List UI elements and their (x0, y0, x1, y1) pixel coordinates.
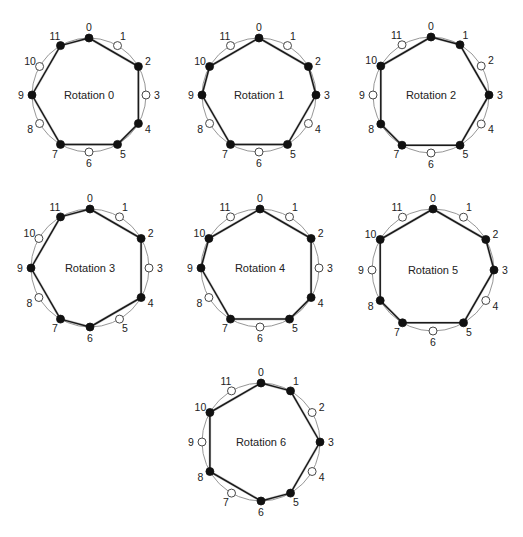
pitch-label-3: 3 (324, 89, 330, 101)
pitch-label-10: 10 (194, 55, 206, 67)
pitch-label-7: 7 (52, 322, 58, 334)
filled-node-0 (429, 205, 437, 213)
filled-node-6 (86, 323, 94, 331)
filled-node-2 (307, 235, 315, 243)
filled-node-4 (137, 294, 145, 302)
rotation-panel-4: 01234567891011Rotation 4 (187, 192, 333, 344)
filled-node-0 (255, 34, 263, 42)
open-node-8 (205, 294, 213, 302)
pitch-label-2: 2 (148, 227, 154, 239)
pitch-label-8: 8 (368, 300, 374, 312)
pitch-label-4: 4 (315, 123, 321, 135)
pitch-label-0: 0 (257, 192, 263, 204)
pitch-label-0: 0 (87, 192, 93, 204)
pitch-label-5: 5 (120, 148, 126, 160)
open-node-11 (227, 42, 235, 50)
pitch-label-1: 1 (466, 201, 472, 213)
pitch-label-5: 5 (463, 148, 469, 160)
pitch-label-11: 11 (220, 201, 231, 213)
pitch-label-11: 11 (221, 375, 232, 387)
pitch-label-5: 5 (290, 148, 296, 160)
pitch-label-3: 3 (328, 436, 334, 448)
rotation-title: Rotation 1 (234, 89, 284, 101)
pitch-label-8: 8 (197, 123, 203, 135)
filled-node-9 (197, 264, 205, 272)
open-node-8 (36, 120, 44, 128)
pitch-label-0: 0 (86, 21, 92, 33)
filled-node-6 (257, 497, 265, 505)
open-node-3 (145, 264, 153, 272)
pitch-label-2: 2 (315, 55, 321, 67)
pitch-label-6: 6 (87, 332, 93, 344)
open-node-1 (116, 213, 124, 221)
open-node-6 (427, 149, 435, 157)
open-node-6 (429, 327, 437, 335)
pitch-label-4: 4 (145, 123, 151, 135)
pitch-label-11: 11 (220, 30, 231, 42)
filled-node-11 (57, 42, 65, 50)
pitch-label-5: 5 (292, 322, 298, 334)
pitch-label-0: 0 (430, 192, 436, 204)
filled-node-10 (205, 235, 213, 243)
pitch-label-11: 11 (392, 201, 403, 213)
open-node-6 (256, 323, 264, 331)
rotation-diagram-figure: 01234567891011Rotation 001234567891011Ro… (0, 0, 523, 537)
pitch-label-5: 5 (122, 322, 128, 334)
filled-node-8 (377, 120, 385, 128)
open-node-9 (198, 438, 206, 446)
filled-node-3 (316, 438, 324, 446)
filled-node-0 (427, 33, 435, 41)
pitch-label-3: 3 (502, 264, 508, 276)
pitch-label-9: 9 (18, 89, 24, 101)
pitch-label-10: 10 (24, 227, 36, 239)
filled-node-10 (206, 409, 214, 417)
pitch-label-4: 4 (318, 297, 324, 309)
pitch-label-0: 0 (258, 366, 264, 378)
filled-node-10 (376, 236, 384, 244)
open-node-8 (35, 294, 43, 302)
pitch-label-9: 9 (358, 264, 364, 276)
pitch-label-10: 10 (194, 227, 206, 239)
rotation-panel-6: 01234567891011Rotation 6 (188, 366, 334, 518)
pitch-label-1: 1 (120, 30, 126, 42)
filled-node-0 (256, 205, 264, 213)
pitch-label-6: 6 (428, 158, 434, 170)
pitch-label-9: 9 (188, 89, 194, 101)
pitch-label-9: 9 (359, 89, 365, 101)
pitch-label-0: 0 (256, 21, 262, 33)
filled-node-8 (206, 468, 214, 476)
filled-node-0 (257, 379, 265, 387)
filled-node-0 (86, 205, 94, 213)
filled-node-2 (137, 235, 145, 243)
pitch-label-8: 8 (26, 297, 32, 309)
pitch-label-2: 2 (145, 55, 151, 67)
pitch-label-10: 10 (365, 54, 377, 66)
pitch-label-4: 4 (488, 123, 494, 135)
pitch-label-11: 11 (391, 29, 402, 41)
pitch-label-9: 9 (187, 262, 193, 274)
pitch-label-1: 1 (292, 201, 298, 213)
pitch-label-5: 5 (293, 496, 299, 508)
pitch-label-0: 0 (428, 20, 434, 32)
pitch-label-10: 10 (195, 401, 207, 413)
rotation-panel-5: 01234567891011Rotation 5 (358, 192, 508, 348)
rotation-panel-3: 01234567891011Rotation 3 (17, 192, 163, 344)
filled-node-9 (28, 91, 36, 99)
pitch-label-10: 10 (24, 55, 36, 67)
open-node-4 (482, 297, 490, 305)
open-node-8 (206, 120, 214, 128)
filled-node-8 (376, 297, 384, 305)
open-node-2 (477, 62, 485, 70)
open-node-4 (477, 120, 485, 128)
rotation-panel-2: 01234567891011Rotation 2 (359, 20, 503, 170)
pitch-label-6: 6 (430, 336, 436, 348)
pitch-label-11: 11 (50, 201, 61, 213)
filled-node-1 (287, 387, 295, 395)
pitch-label-8: 8 (197, 471, 203, 483)
open-node-9 (368, 266, 376, 274)
pitch-label-7: 7 (222, 322, 228, 334)
open-node-2 (308, 409, 316, 417)
filled-node-10 (206, 63, 214, 71)
filled-node-9 (27, 264, 35, 272)
pitch-label-3: 3 (327, 262, 333, 274)
